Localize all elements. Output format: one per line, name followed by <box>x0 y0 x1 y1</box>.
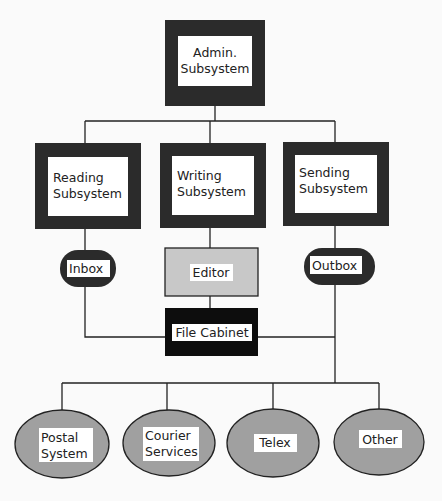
inbox-node[interactable]: Inbox <box>60 250 116 287</box>
reading-subsystem-node[interactable]: Reading Subsystem <box>35 143 141 229</box>
admin-label-line2: Subsystem <box>181 61 250 76</box>
destination-postal-node[interactable]: Postal System <box>15 410 109 478</box>
destination-telex-node[interactable]: Telex <box>227 409 319 477</box>
diagram-canvas: Admin. Subsystem Reading Subsystem Writi… <box>0 0 442 501</box>
courier-label-line2: Services <box>145 444 198 459</box>
writing-label-line2: Subsystem <box>177 184 246 199</box>
admin-subsystem-node[interactable]: Admin. Subsystem <box>165 20 265 106</box>
outbox-node[interactable]: Outbox <box>304 248 375 285</box>
destination-courier-node[interactable]: Courier Services <box>123 410 215 476</box>
postal-label-line2: System <box>41 446 88 461</box>
writing-label-line1: Writing <box>177 168 222 183</box>
reading-label-line2: Subsystem <box>53 186 122 201</box>
destination-other-node[interactable]: Other <box>334 409 424 475</box>
courier-label-line1: Courier <box>145 428 192 443</box>
inbox-label: Inbox <box>69 261 103 276</box>
postal-label-line1: Postal <box>41 430 78 445</box>
admin-label-line1: Admin. <box>193 45 237 60</box>
sending-label-line1: Sending <box>299 165 350 180</box>
editor-node[interactable]: Editor <box>165 248 258 296</box>
file-cabinet-label: File Cabinet <box>175 325 248 340</box>
other-label: Other <box>362 432 398 447</box>
connector-inbox-cabinet <box>85 287 165 337</box>
sending-subsystem-node[interactable]: Sending Subsystem <box>283 142 389 226</box>
writing-subsystem-node[interactable]: Writing Subsystem <box>160 143 266 228</box>
file-cabinet-node[interactable]: File Cabinet <box>165 308 258 356</box>
sending-label-line2: Subsystem <box>299 181 368 196</box>
telex-label: Telex <box>258 435 291 450</box>
outbox-label: Outbox <box>312 258 357 273</box>
reading-label-line1: Reading <box>53 170 104 185</box>
editor-label: Editor <box>193 265 231 280</box>
